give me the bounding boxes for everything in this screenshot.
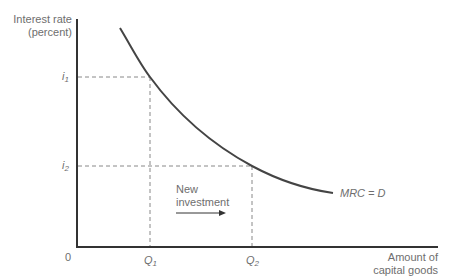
q1-symbol: Q	[144, 254, 153, 266]
x-axis-label: Amount of capital goods	[340, 251, 438, 277]
q2-symbol: Q	[246, 254, 255, 266]
origin-label: 0	[65, 251, 71, 264]
i1-tick-label: i1	[62, 70, 69, 83]
curve-label: MRC = D	[340, 187, 386, 200]
x-axis-label-line1: Amount of	[340, 251, 438, 264]
q2-tick-label: Q2	[246, 254, 259, 267]
q1-sub: 1	[153, 259, 157, 268]
y-axis-label-line1: Interest rate	[0, 13, 72, 26]
mrc-demand-curve	[120, 28, 333, 193]
annotation-line2: investment	[176, 196, 229, 209]
y-axis-label-line2: (percent)	[0, 26, 72, 39]
new-investment-annotation: New investment	[176, 183, 229, 209]
i1-sub: 1	[64, 75, 68, 84]
annotation-line1: New	[176, 183, 229, 196]
i2-sub: 2	[64, 164, 68, 173]
q1-tick-label: Q1	[144, 254, 157, 267]
i2-tick-label: i2	[62, 159, 69, 172]
y-axis-label: Interest rate (percent)	[0, 13, 72, 39]
x-axis-label-line2: capital goods	[340, 264, 438, 277]
q2-sub: 2	[255, 259, 259, 268]
arrowhead-icon	[219, 210, 226, 216]
diagram-canvas	[0, 0, 450, 280]
